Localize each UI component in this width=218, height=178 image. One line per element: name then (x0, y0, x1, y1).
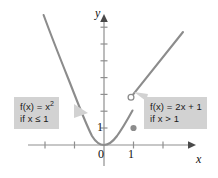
y-axis-arrow (100, 14, 108, 22)
x-tick-label-1: 1 (128, 147, 134, 162)
callout-left-tail (74, 104, 88, 118)
callout-parabola-line2: if x ≤ 1 (20, 113, 54, 125)
linear-branch (132, 32, 183, 96)
x-axis-arrow (188, 141, 196, 149)
piecewise-function-figure: y x 0 1 1 f(x) = x2 if x ≤ 1 f(x) = 2x +… (0, 0, 218, 178)
open-endpoint-circle (128, 94, 134, 100)
callout-parabola-exponent: 2 (50, 100, 54, 107)
graph-canvas (0, 0, 218, 178)
callout-parabola-expression: f(x) = x (20, 101, 50, 112)
callout-line-line1: f(x) = 2x + 1 (150, 101, 202, 113)
y-axis-label: y (95, 6, 100, 21)
x-axis-label: x (196, 152, 201, 167)
y-tick-label-1: 1 (97, 120, 103, 135)
callout-parabola-line1: f(x) = x2 (20, 101, 54, 113)
callout-line-line2: if x > 1 (150, 113, 202, 125)
callout-line: f(x) = 2x + 1 if x > 1 (144, 97, 207, 129)
closed-endpoint-dot (130, 125, 136, 131)
origin-tick-label: 0 (98, 147, 104, 162)
callout-parabola: f(x) = x2 if x ≤ 1 (14, 97, 59, 129)
